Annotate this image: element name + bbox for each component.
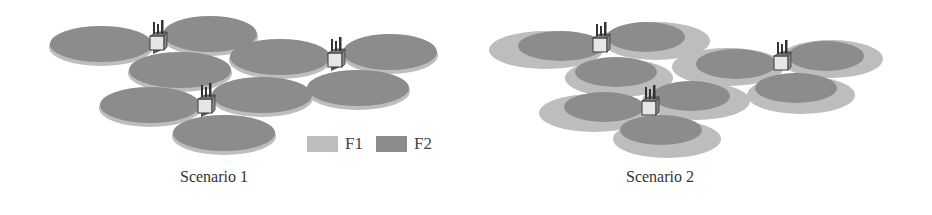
scenario-1-caption: Scenario 1 xyxy=(180,168,248,186)
scenario-2-caption: Scenario 2 xyxy=(626,168,694,186)
legend-item-f1: F1 xyxy=(307,134,363,154)
scenario-1-panel: F1 F2 Scenario 1 xyxy=(0,0,466,215)
legend-swatch-f1 xyxy=(307,136,338,152)
base-station-icon xyxy=(328,37,345,71)
base-station-icon xyxy=(593,22,610,52)
base-station-icon xyxy=(150,20,167,54)
scenario-2-diagram xyxy=(466,0,932,215)
legend-swatch-f2 xyxy=(376,136,407,152)
legend-item-f2: F2 xyxy=(376,134,432,154)
legend: F1 F2 xyxy=(307,134,445,154)
legend-label-f1: F1 xyxy=(345,134,363,154)
base-station-icon xyxy=(774,40,791,70)
scenario-2-panel: Scenario 2 xyxy=(466,0,932,215)
legend-label-f2: F2 xyxy=(414,134,432,154)
